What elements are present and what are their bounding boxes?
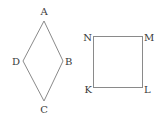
vertex-label-n: N [83,32,92,43]
vertex-label-a: A [39,6,48,17]
vertex-label-l: L [144,84,151,95]
vertex-label-b: B [65,56,72,67]
square-klmn: N M K L [83,32,154,95]
vertex-label-m: M [144,32,154,43]
rhombus-abcd: A B C D [12,6,72,115]
rhombus-outline [23,21,63,101]
vertex-label-c: C [40,104,48,115]
square-outline [94,37,143,88]
vertex-label-d: D [12,56,20,67]
geometry-figure: A B C D N M K L [0,0,160,119]
vertex-label-k: K [85,84,93,95]
